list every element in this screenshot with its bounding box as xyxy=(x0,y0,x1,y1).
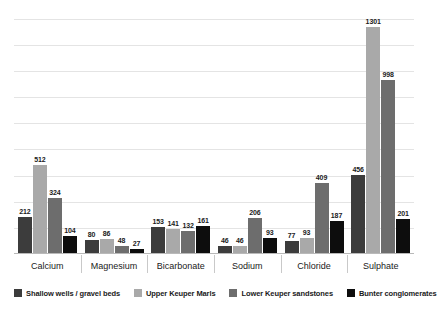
bar xyxy=(85,240,99,254)
bar-slot: 77 xyxy=(285,10,299,254)
legend-label: Lower Keuper sandstones xyxy=(241,289,332,298)
bar-value-label: 153 xyxy=(152,218,163,226)
bar xyxy=(48,198,62,254)
bar-value-label: 141 xyxy=(167,220,178,228)
bar-value-label: 512 xyxy=(34,156,45,164)
bar xyxy=(300,238,314,254)
bar-slot: 86 xyxy=(100,10,114,254)
bar-slot: 48 xyxy=(115,10,129,254)
bar xyxy=(248,218,262,254)
bar-slot: 104 xyxy=(63,10,77,254)
bar-value-label: 409 xyxy=(316,174,327,182)
bar-value-label: 46 xyxy=(221,237,229,245)
bar-value-label: 324 xyxy=(49,189,60,197)
bar-slot: 206 xyxy=(248,10,262,254)
bar-group: 153141132161 xyxy=(147,10,214,254)
bar-value-label: 132 xyxy=(182,222,193,230)
bar-value-label: 93 xyxy=(303,229,311,237)
bar-slot: 456 xyxy=(351,10,365,254)
bar-value-label: 201 xyxy=(397,210,408,218)
bar xyxy=(315,183,329,254)
bar-value-label: 77 xyxy=(288,232,296,240)
legend-label: Shallow wells / gravel beds xyxy=(26,289,120,298)
bar-slot: 201 xyxy=(396,10,410,254)
legend-item[interactable]: Upper Keuper Marls xyxy=(134,289,215,298)
bar-value-label: 48 xyxy=(118,237,126,245)
legend-swatch-icon xyxy=(134,289,142,297)
legend-item[interactable]: Shallow wells / gravel beds xyxy=(14,289,120,298)
bar xyxy=(263,238,277,254)
bar-group: 212512324104 xyxy=(14,10,81,254)
bar xyxy=(151,227,165,254)
legend-swatch-icon xyxy=(14,289,22,297)
bar-slot: 409 xyxy=(315,10,329,254)
bar-value-label: 27 xyxy=(133,240,141,248)
category-label-calcium: Calcium xyxy=(14,256,81,276)
bar-value-label: 187 xyxy=(331,212,342,220)
bar-group: 4561301998201 xyxy=(347,10,414,254)
category-axis-labels: CalciumMagnesiumBicarbonateSodiumChlorid… xyxy=(14,256,414,276)
bar-value-label: 212 xyxy=(19,208,30,216)
bar xyxy=(18,217,32,254)
legend-swatch-icon xyxy=(347,289,355,297)
bar-slot: 998 xyxy=(381,10,395,254)
legend-label: Upper Keuper Marls xyxy=(146,289,215,298)
bar-slot: 46 xyxy=(233,10,247,254)
category-label-sulphate: Sulphate xyxy=(347,256,414,276)
bar-value-label: 86 xyxy=(103,230,111,238)
bar-slot: 46 xyxy=(218,10,232,254)
bar xyxy=(396,219,410,254)
category-label-bicarbonate: Bicarbonate xyxy=(147,256,214,276)
bar-slot: 187 xyxy=(330,10,344,254)
bar-slot: 153 xyxy=(151,10,165,254)
bar-value-label: 456 xyxy=(352,166,363,174)
bar-slot: 161 xyxy=(196,10,210,254)
legend-item[interactable]: Bunter conglomerates xyxy=(347,289,437,298)
bar-group: 464620693 xyxy=(214,10,281,254)
bar-value-label: 93 xyxy=(266,229,274,237)
bar xyxy=(351,175,365,254)
bar xyxy=(381,80,395,254)
bar xyxy=(63,236,77,254)
bar-slot: 1301 xyxy=(366,10,380,254)
bar-value-label: 1301 xyxy=(366,18,381,26)
x-axis-line xyxy=(14,253,414,254)
bar-value-label: 161 xyxy=(197,217,208,225)
bar-value-label: 104 xyxy=(64,227,75,235)
category-label-chloride: Chloride xyxy=(281,256,348,276)
bar-slot: 27 xyxy=(130,10,144,254)
legend-swatch-icon xyxy=(229,289,237,297)
bar-value-label: 46 xyxy=(236,237,244,245)
bar-slot: 93 xyxy=(300,10,314,254)
bar xyxy=(285,241,299,254)
bar-value-label: 998 xyxy=(382,71,393,79)
legend-item[interactable]: Lower Keuper sandstones xyxy=(229,289,332,298)
bar-value-label: 80 xyxy=(88,231,96,239)
bar xyxy=(181,231,195,254)
bar xyxy=(366,27,380,254)
legend-label: Bunter conglomerates xyxy=(359,289,437,298)
bar-slot: 512 xyxy=(33,10,47,254)
bar-slot: 141 xyxy=(166,10,180,254)
bar-slot: 132 xyxy=(181,10,195,254)
bar-slot: 324 xyxy=(48,10,62,254)
bar xyxy=(330,221,344,254)
category-label-sodium: Sodium xyxy=(214,256,281,276)
chart-legend: Shallow wells / gravel bedsUpper Keuper … xyxy=(14,286,414,300)
bar xyxy=(33,165,47,254)
bar-groups-layer: 2125123241048086482715314113216146462069… xyxy=(14,10,414,254)
bar xyxy=(196,226,210,254)
bar-value-label: 206 xyxy=(249,209,260,217)
bar-group: 7793409187 xyxy=(281,10,348,254)
category-label-magnesium: Magnesium xyxy=(81,256,148,276)
bar-slot: 93 xyxy=(263,10,277,254)
bar xyxy=(100,239,114,254)
bar xyxy=(166,229,180,254)
bar-slot: 80 xyxy=(85,10,99,254)
bar-slot: 212 xyxy=(18,10,32,254)
bar-group: 80864827 xyxy=(81,10,148,254)
